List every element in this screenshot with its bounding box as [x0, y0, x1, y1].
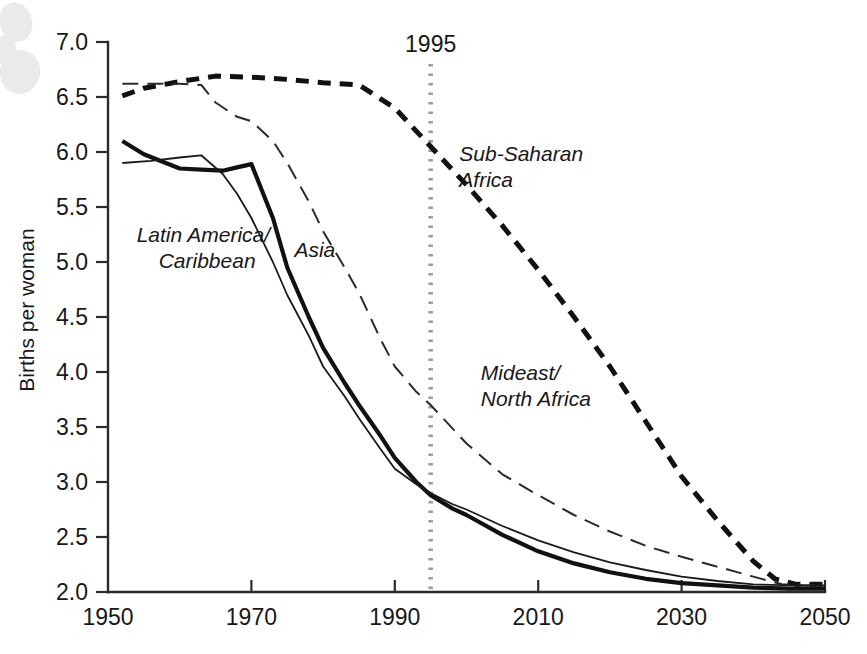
y-axis-title: Births per woman [15, 228, 38, 391]
y-tick-label: 3.0 [56, 469, 88, 495]
y-axis-ticks: 2.02.53.03.54.04.55.05.56.06.57.0 [56, 29, 108, 605]
chart-figure: Births per woman 2.02.53.03.54.04.55.05.… [0, 0, 867, 654]
series-label-sub-saharan: Sub-SaharanAfrica [457, 142, 583, 191]
x-tick-label: 2050 [799, 604, 850, 630]
reference-line-label: 1995 [405, 31, 456, 57]
y-tick-label: 6.0 [56, 139, 88, 165]
x-tick-label: 1990 [369, 604, 420, 630]
x-tick-label: 2010 [513, 604, 564, 630]
y-tick-label: 5.5 [56, 194, 88, 220]
series-label-asia: Asia [292, 238, 335, 261]
x-tick-label: 1970 [226, 604, 277, 630]
scan-artifact-smudge [0, 0, 44, 98]
series-label-latin-america: Latin America/Caribbean [137, 223, 273, 272]
x-tick-label: 1950 [82, 604, 133, 630]
series-line-asia [122, 141, 825, 589]
births-per-woman-line-chart: Births per woman 2.02.53.03.54.04.55.05.… [0, 0, 867, 654]
series-label-mideast: Mideast/North Africa [481, 361, 591, 410]
series-annotations: Sub-SaharanAfricaMideast/North AfricaAsi… [137, 142, 591, 410]
y-tick-label: 4.0 [56, 359, 88, 385]
y-tick-label: 7.0 [56, 29, 88, 55]
y-tick-label: 5.0 [56, 249, 88, 275]
y-tick-label: 3.5 [56, 414, 88, 440]
y-tick-label: 2.0 [56, 579, 88, 605]
y-tick-label: 4.5 [56, 304, 88, 330]
y-tick-label: 6.5 [56, 84, 88, 110]
y-tick-label: 2.5 [56, 524, 88, 550]
x-tick-label: 2030 [656, 604, 707, 630]
